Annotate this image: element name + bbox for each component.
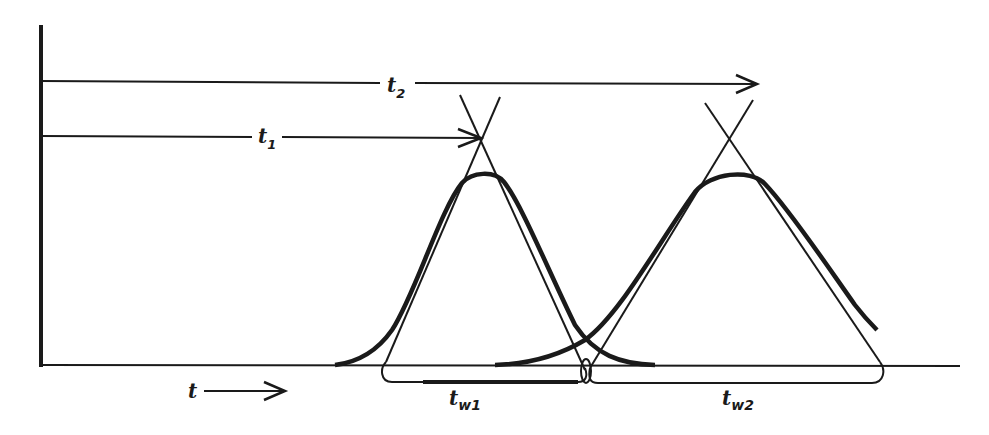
t2-label: t2 [387, 73, 405, 101]
t1-arrow: t1 [41, 124, 481, 152]
peak-1 [335, 95, 655, 370]
time-direction-arrow: t [188, 379, 285, 403]
t2-arrow: t2 [41, 73, 757, 101]
tw2-label: tw2 [722, 386, 754, 413]
t1-label: t1 [258, 124, 276, 152]
time-axis-label: t [188, 379, 198, 403]
chromatogram-diagram: t2 t1 tw1 tw2 t [0, 0, 989, 435]
tw1-label: tw1 [449, 386, 481, 413]
tw1-bracket [382, 359, 591, 383]
peak-2 [495, 100, 880, 368]
